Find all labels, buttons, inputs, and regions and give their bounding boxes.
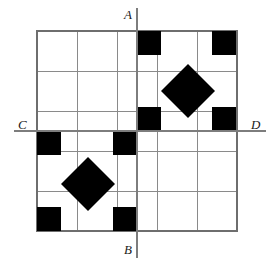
- axis-label-d: D: [251, 118, 260, 131]
- axis-label-b: B: [124, 243, 132, 256]
- sq-bottom-col3: [113, 207, 137, 231]
- sq-top-right: [212, 31, 236, 55]
- sq-bottom-left: [37, 207, 61, 231]
- sq-col3-below-c: [113, 131, 137, 155]
- sq-top-col3: [137, 31, 161, 55]
- sq-mid-col3: [137, 107, 161, 131]
- axis-label-a: A: [124, 8, 132, 21]
- figure-canvas: A B C D: [0, 0, 278, 270]
- axis-label-c: C: [18, 118, 27, 131]
- sq-mid-right: [212, 107, 236, 131]
- grid-figure-svg: [0, 0, 278, 270]
- sq-left-below-c: [37, 131, 61, 155]
